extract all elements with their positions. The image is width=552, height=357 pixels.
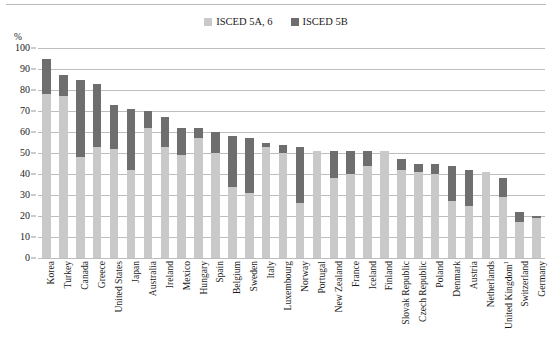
x-axis-label-slot: Poland [427, 259, 444, 357]
bar-segment-isced-5b[interactable] [414, 164, 423, 172]
bar-stack[interactable] [93, 84, 102, 258]
bar-segment-isced-5a-6[interactable] [161, 147, 170, 258]
bar-segment-isced-5a-6[interactable] [211, 153, 220, 258]
x-axis-label-slot: Greece [89, 259, 106, 357]
bar-stack[interactable] [42, 59, 51, 259]
bar-segment-isced-5a-6[interactable] [363, 166, 372, 258]
y-axis-tick-label: 70 [20, 106, 30, 116]
bar-segment-isced-5a-6[interactable] [144, 128, 153, 258]
bar-segment-isced-5a-6[interactable] [279, 153, 288, 258]
bar-segment-isced-5b[interactable] [515, 212, 524, 223]
bar-stack[interactable] [76, 80, 85, 259]
bar-stack[interactable] [59, 75, 68, 258]
bar-stack[interactable] [448, 166, 457, 258]
bar-stack[interactable] [414, 164, 423, 259]
bar-segment-isced-5a-6[interactable] [414, 172, 423, 258]
bar-segment-isced-5a-6[interactable] [110, 149, 119, 258]
bar-segment-isced-5b[interactable] [211, 132, 220, 153]
bar-segment-isced-5a-6[interactable] [76, 157, 85, 258]
bar-stack[interactable] [465, 170, 474, 258]
bar-stack[interactable] [499, 178, 508, 258]
bar-segment-isced-5a-6[interactable] [177, 155, 186, 258]
bar-segment-isced-5a-6[interactable] [515, 222, 524, 258]
bar-segment-isced-5a-6[interactable] [431, 174, 440, 258]
bar-segment-isced-5a-6[interactable] [59, 96, 68, 258]
bar-segment-isced-5b[interactable] [397, 159, 406, 170]
bar-segment-isced-5b[interactable] [177, 128, 186, 155]
bar-stack[interactable] [431, 164, 440, 259]
bar-stack[interactable] [127, 109, 136, 258]
bar-segment-isced-5b[interactable] [42, 59, 51, 95]
y-axis-tick-label: 100 [15, 43, 30, 53]
bar-stack[interactable] [279, 145, 288, 258]
bar-segment-isced-5b[interactable] [499, 178, 508, 197]
bar-segment-isced-5b[interactable] [127, 109, 136, 170]
bar-stack[interactable] [515, 212, 524, 258]
bar-stack[interactable] [194, 128, 203, 258]
bar-segment-isced-5b[interactable] [532, 216, 541, 218]
bar-stack[interactable] [346, 151, 355, 258]
bar-segment-isced-5a-6[interactable] [93, 147, 102, 258]
bar-segment-isced-5a-6[interactable] [346, 174, 355, 258]
bar-stack[interactable] [532, 216, 541, 258]
bar-segment-isced-5b[interactable] [228, 136, 237, 186]
bar-segment-isced-5a-6[interactable] [262, 147, 271, 258]
bar-stack[interactable] [313, 151, 322, 258]
bar-stack[interactable] [296, 147, 305, 258]
bar-segment-isced-5a-6[interactable] [380, 151, 389, 258]
bar-segment-isced-5b[interactable] [465, 170, 474, 206]
bar-stack[interactable] [363, 151, 372, 258]
bar-segment-isced-5a-6[interactable] [228, 187, 237, 258]
x-axis-label-slot: New Zealand [325, 259, 342, 357]
bar-segment-isced-5a-6[interactable] [330, 178, 339, 258]
bar-segment-isced-5b[interactable] [245, 138, 254, 193]
footnote-marker: 1 [502, 261, 509, 264]
bar-stack[interactable] [161, 117, 170, 258]
bar-segment-isced-5a-6[interactable] [482, 172, 491, 258]
bar-stack[interactable] [397, 159, 406, 258]
bar-segment-isced-5a-6[interactable] [245, 193, 254, 258]
bar-segment-isced-5a-6[interactable] [499, 197, 508, 258]
bar-segment-isced-5b[interactable] [279, 145, 288, 153]
bar-segment-isced-5b[interactable] [110, 105, 119, 149]
bar-stack[interactable] [482, 172, 491, 258]
legend-item-isced-5a-6: ISCED 5A, 6 [204, 17, 272, 28]
x-axis-label-slot: Slovak Republic [393, 259, 410, 357]
bar-stack[interactable] [245, 138, 254, 258]
bar-segment-isced-5b[interactable] [194, 128, 203, 139]
x-axis-label-slot: Norway [292, 259, 309, 357]
y-axis-tick-label: 90 [20, 64, 30, 74]
bar-segment-isced-5b[interactable] [93, 84, 102, 147]
bar-segment-isced-5a-6[interactable] [313, 151, 322, 258]
bar-segment-isced-5b[interactable] [262, 143, 271, 147]
x-axis-label-slot: Germany [528, 259, 545, 357]
bar-stack[interactable] [262, 143, 271, 259]
bar-stack[interactable] [144, 111, 153, 258]
bar-segment-isced-5b[interactable] [431, 164, 440, 175]
bar-segment-isced-5b[interactable] [346, 151, 355, 174]
bar-segment-isced-5a-6[interactable] [532, 218, 541, 258]
bar-segment-isced-5b[interactable] [76, 80, 85, 158]
bar-segment-isced-5b[interactable] [59, 75, 68, 96]
bar-stack[interactable] [380, 151, 389, 258]
bar-segment-isced-5b[interactable] [296, 147, 305, 204]
bar-segment-isced-5b[interactable] [448, 166, 457, 202]
bar-stack[interactable] [211, 132, 220, 258]
bar-segment-isced-5b[interactable] [363, 151, 372, 166]
bar-stack[interactable] [228, 136, 237, 258]
bar-segment-isced-5a-6[interactable] [127, 170, 136, 258]
bar-segment-isced-5b[interactable] [330, 151, 339, 178]
x-axis-label-slot: Denmark [444, 259, 461, 357]
bar-segment-isced-5a-6[interactable] [42, 94, 51, 258]
bar-segment-isced-5b[interactable] [144, 111, 153, 128]
bar-segment-isced-5b[interactable] [161, 117, 170, 146]
bar-segment-isced-5a-6[interactable] [397, 170, 406, 258]
bar-stack[interactable] [110, 105, 119, 258]
bar-segment-isced-5a-6[interactable] [296, 203, 305, 258]
bar-stack[interactable] [330, 151, 339, 258]
bar-segment-isced-5a-6[interactable] [465, 206, 474, 259]
bar-segment-isced-5a-6[interactable] [194, 138, 203, 258]
bar-stack[interactable] [177, 128, 186, 258]
bar-segment-isced-5a-6[interactable] [448, 201, 457, 258]
x-axis-category-labels: KoreaTurkeyCanadaGreeceUnited StatesJapa… [38, 259, 545, 357]
